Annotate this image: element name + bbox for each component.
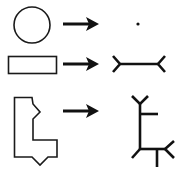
rectangle-shape [9,57,57,74]
row-circle [14,7,140,43]
circle-shape [14,7,50,43]
arrow-icon [63,17,99,31]
skeleton-diagram [0,0,182,173]
arrow-icon [63,57,99,71]
l-shape [15,98,58,166]
rectangle-skeleton [113,56,165,72]
row-l-shape [15,96,175,167]
arrow-icon [63,104,99,118]
l-shape-skeleton [132,96,174,167]
point-skeleton [136,22,139,25]
row-rectangle [9,56,166,74]
